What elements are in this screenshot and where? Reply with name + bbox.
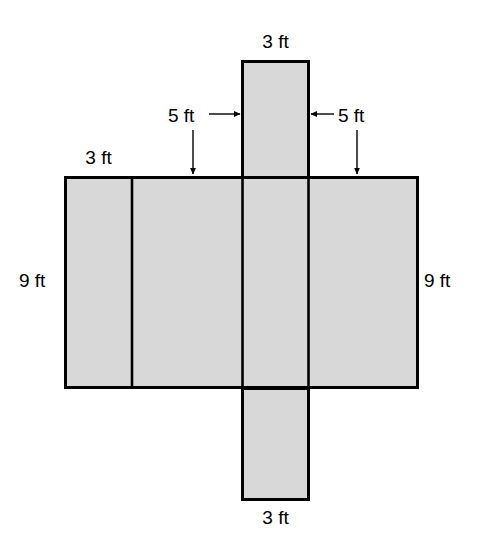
dimension-label-left-height: 9 ft — [19, 271, 45, 290]
dimension-label-bottom-strip: 3 ft — [242, 508, 309, 527]
geometry-diagram: 3 ft 3 ft 9 ft 9 ft 5 ft 5 ft 3 ft — [0, 0, 486, 552]
dimension-label-top-strip: 3 ft — [242, 32, 309, 51]
dimension-label-left-column: 3 ft — [65, 148, 132, 167]
dimension-label-right-height: 9 ft — [424, 271, 450, 290]
dimension-label-five-left: 5 ft — [168, 106, 194, 125]
net-drawing — [0, 0, 486, 552]
dimension-label-five-right: 5 ft — [338, 106, 364, 125]
bottom-vertical-strip — [243, 389, 309, 500]
top-vertical-strip — [243, 62, 309, 178]
